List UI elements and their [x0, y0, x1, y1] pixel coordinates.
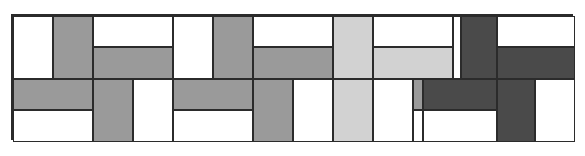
tile: [173, 16, 213, 79]
tile: [497, 16, 575, 47]
tile: [13, 110, 93, 142]
tile: [253, 47, 333, 79]
tile: [213, 16, 253, 79]
tile: [133, 79, 173, 142]
tile: [373, 47, 453, 79]
tile: [333, 79, 373, 142]
tile: [93, 16, 173, 47]
tile: [173, 79, 253, 110]
tile: [373, 79, 413, 142]
tiling-figure: [11, 14, 573, 140]
tile: [373, 16, 453, 47]
tile: [497, 79, 535, 142]
tile-group: [13, 16, 575, 142]
tile: [423, 79, 497, 110]
tile: [93, 47, 173, 79]
tile: [253, 79, 293, 142]
tile: [13, 79, 93, 110]
tile: [13, 16, 53, 79]
figure-stage: [0, 0, 585, 156]
tile: [253, 16, 333, 47]
tile: [461, 16, 497, 79]
tile: [93, 79, 133, 142]
tile: [535, 79, 575, 142]
tile: [173, 110, 253, 142]
tile: [53, 16, 93, 79]
tile: [497, 47, 575, 79]
tile: [333, 16, 373, 79]
tile: [423, 110, 497, 142]
tiling-canvas: [13, 16, 575, 142]
tile: [293, 79, 333, 142]
